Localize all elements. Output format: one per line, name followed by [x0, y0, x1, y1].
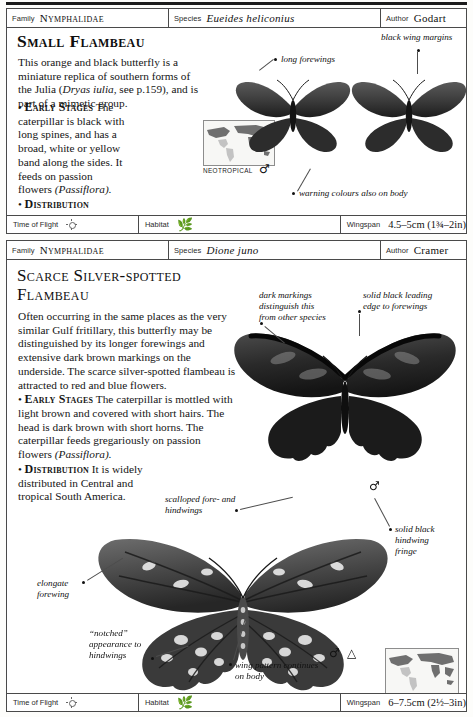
bullet-marker: •	[18, 101, 25, 113]
footer-wingspan-value: 4.5–5cm (1¾–2in)	[388, 219, 466, 230]
butterfly-specimen-image-upper	[221, 318, 466, 493]
header-family-key: Family	[12, 246, 35, 255]
world-map-icon	[386, 649, 458, 693]
annotation-elongate-forewing: elongate forewing	[37, 578, 99, 600]
annotation-leader-line	[359, 314, 360, 336]
header-species-key: Species	[174, 14, 201, 23]
footer-wingspan-key: Wingspan	[347, 698, 380, 707]
header-family-cell: Family Nymphalidae	[7, 9, 169, 27]
footer-habitat-key: Habitat	[145, 698, 169, 707]
footer-habitat-key: Habitat	[145, 220, 169, 229]
header-author-value: Godart	[414, 12, 446, 24]
header-author-cell: Author Cramer	[381, 241, 466, 259]
header-family-key: Family	[12, 14, 35, 23]
field-guide-page: Family Nymphalidae Species Eueides helic…	[0, 0, 473, 717]
entry-header: Family Nymphalidae Species Eueides helic…	[7, 9, 466, 28]
annotation-dot	[358, 310, 361, 313]
annotation-leader-line	[417, 52, 418, 74]
distribution-map	[385, 648, 459, 693]
footer-wingspan-value: 6–7.5cm (2½–3in)	[388, 697, 466, 708]
annotation-dot	[260, 322, 263, 325]
distribution-paragraph: • Distribution Southern Mexico to tropic…	[18, 197, 128, 215]
early-stages-paragraph: • Early Stages The caterpillar is mottle…	[18, 392, 236, 462]
footer-wingspan-cell: Wingspan 6–7.5cm (2½–3in)	[341, 694, 466, 711]
species-entry-small-flambeau: Family Nymphalidae Species Eueides helic…	[6, 8, 467, 234]
annotation-black-wing-margins: black wing margins	[381, 32, 455, 43]
page-title-scarce-silver-spotted-flambeau: Scarce Silver-spotted Flambeau	[17, 266, 232, 304]
header-species-key: Species	[174, 246, 201, 255]
annotation-leader-line	[374, 498, 390, 527]
header-species-cell: Species Dione juno	[169, 241, 381, 259]
title-line-1: Scarce Silver-spotted	[17, 266, 232, 285]
annotation-dark-markings: dark markings distinguish this from othe…	[259, 290, 333, 323]
header-species-cell: Species Eueides heliconius	[169, 9, 381, 27]
annotation-dot	[292, 192, 295, 195]
annotation-solid-black-leading-edge: solid black leading edge to forewings	[363, 290, 443, 312]
header-author-key: Author	[386, 14, 409, 23]
footer-time-of-flight-key: Time of Flight	[13, 220, 58, 229]
annotation-solid-black-hindwing-fringe: solid black hindwing fringe	[395, 524, 451, 557]
early-stages-text: The caterpillar is black with long spine…	[18, 101, 124, 195]
header-family-cell: Family Nymphalidae	[7, 241, 169, 259]
bullet-marker: •	[18, 463, 25, 475]
header-author-value: Cramer	[414, 244, 449, 256]
plant-icon: 🌿	[177, 696, 193, 709]
annotation-leader-line	[240, 497, 293, 510]
header-family-value: Nymphalidae	[40, 244, 104, 256]
early-stages-label: Early Stages	[25, 100, 94, 114]
annotation-notched-appearance: “notched” appearance to hindwings	[89, 628, 153, 661]
early-stages-label: Early Stages	[25, 392, 94, 406]
footer-wingspan-cell: Wingspan 4.5–5cm (1¾–2in)	[341, 216, 466, 233]
underside-triangle-icon: △	[347, 646, 356, 660]
entry-header: Family Nymphalidae Species Dione juno Au…	[7, 241, 466, 260]
annotation-dot	[389, 528, 392, 531]
sun-icon	[66, 219, 77, 230]
annotation-dot	[82, 581, 85, 584]
entry-footer: Time of Flight Habitat 🌿 Wingspan 6–7.5c…	[7, 693, 466, 711]
annotation-long-forewings: long forewings	[281, 54, 335, 65]
entry-footer: Time of Flight Habitat 🌿 Wingspan 4.5–5c…	[7, 215, 466, 233]
intro-italic: Dryas iulia,	[63, 83, 117, 95]
sex-symbol-male-lower: ♂	[329, 646, 340, 660]
sex-symbol-male-upper: ♂	[369, 479, 380, 493]
header-species-value: Eueides heliconius	[206, 12, 294, 24]
entry-content: Scarce Silver-spotted Flambeau Often occ…	[7, 260, 466, 693]
annotation-dot	[274, 58, 277, 61]
intro-paragraph: Often occurring in the same places as th…	[18, 310, 236, 392]
footer-time-of-flight-key: Time of Flight	[13, 698, 58, 707]
header-species-value: Dione juno	[206, 244, 258, 256]
page-top-rule	[6, 2, 467, 5]
bullet-marker: •	[18, 198, 25, 210]
annotation-dot	[229, 663, 232, 666]
sun-icon	[66, 697, 77, 708]
footer-time-of-flight-cell: Time of Flight	[7, 216, 139, 233]
early-stages-paragraph: • Early Stages The caterpillar is black …	[18, 100, 128, 197]
early-stages-italic: (Passiflora).	[55, 183, 112, 195]
annotation-wing-pattern-body: wing pattern continues on body	[235, 660, 319, 682]
sex-symbol-male: ♂	[259, 162, 270, 176]
bullet-marker: •	[18, 393, 25, 405]
annotation-dot	[151, 657, 154, 660]
distribution-paragraph: • Distribution It is widely distributed …	[18, 462, 168, 504]
title-line-2: Flambeau	[17, 285, 232, 304]
species-entry-scarce-silver-spotted-flambeau: Family Nymphalidae Species Dione juno Au…	[6, 240, 467, 712]
footer-wingspan-key: Wingspan	[347, 220, 380, 229]
page-title-small-flambeau: Small Flambeau	[17, 32, 217, 52]
footer-time-of-flight-cell: Time of Flight	[7, 694, 139, 711]
header-author-key: Author	[386, 246, 409, 255]
header-family-value: Nymphalidae	[40, 12, 104, 24]
annotation-warning-colours: warning colours also on body	[299, 188, 408, 199]
annotation-scalloped-wings: scalloped fore- and hindwings	[165, 494, 247, 516]
footer-habitat-cell: Habitat 🌿	[139, 694, 341, 711]
early-stages-italic: (Passiflora).	[55, 448, 112, 460]
description-text-block: Often occurring in the same places as th…	[18, 310, 236, 504]
distribution-label: Distribution	[25, 197, 89, 211]
footer-habitat-cell: Habitat 🌿	[139, 216, 341, 233]
description-text-block-narrow: • Early Stages The caterpillar is black …	[18, 100, 128, 215]
distribution-label: Distribution	[25, 462, 89, 476]
plant-icon: 🌿	[177, 218, 193, 231]
header-author-cell: Author Godart	[381, 9, 466, 27]
annotation-dot	[235, 509, 238, 512]
entry-content: Small Flambeau This orange and black but…	[7, 28, 466, 215]
